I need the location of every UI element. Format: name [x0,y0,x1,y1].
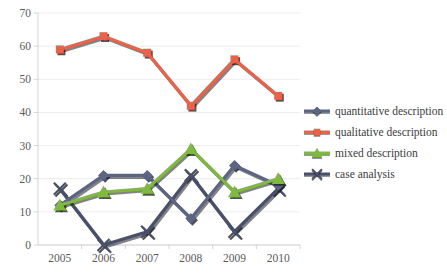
y-axis-tick-label: 70 [20,7,32,19]
data-point-square [314,128,321,135]
data-point-square [187,102,195,110]
x-axis-tick-label: 2008 [179,252,202,264]
data-point-triangle [184,142,197,154]
legend-item-label: case analysis [335,167,395,181]
legend-marker-square-icon [303,125,331,139]
series-line-shadow [61,38,279,108]
legend-item-qualitative-description[interactable]: qualitative description [303,121,447,142]
series-qualitative-description [56,32,284,111]
x-axis-tick-label: 2010 [267,252,290,264]
x-axis-tick-label: 2006 [92,252,115,264]
legend-item-label: mixed description [335,146,418,160]
legend-item-mixed-description[interactable]: mixed description [303,142,447,163]
y-axis-tick-label: 30 [20,140,32,152]
data-point-square [100,32,108,40]
data-point-square [143,49,151,57]
y-axis-tick-label: 40 [20,106,32,118]
x-axis-ticks: 200520062007200820092010 [48,252,290,264]
data-point-triangle [272,172,285,184]
legend-item-label: qualitative description [335,125,438,139]
legend-marker-diamond-icon [303,104,331,118]
y-axis-tick-label: 20 [20,173,32,185]
data-point-diamond [312,106,321,115]
data-point-square [231,55,239,63]
y-axis-tick-label: 0 [25,239,31,251]
data-point-square [56,45,64,53]
legend-marker-x-icon [303,167,331,181]
y-axis-tick-label: 10 [20,206,32,218]
x-axis-tick-label: 2005 [48,252,71,264]
series-case-analysis [54,169,286,252]
legend-item-case-analysis[interactable]: case analysis [303,163,447,184]
x-axis-tick-label: 2007 [136,252,159,264]
line-chart: 010203040506070 200520062007200820092010… [0,0,447,278]
x-axis-tick-label: 2009 [223,252,246,264]
legend-marker-triangle-icon [303,146,331,160]
legend-item-quantitative-description[interactable]: quantitative description [303,100,447,121]
chart-legend: quantitative descriptionqualitative desc… [303,100,447,184]
legend-item-label: quantitative description [335,104,443,118]
y-axis-tick-label: 50 [20,73,32,85]
data-point-square [274,92,282,100]
series-lines [53,32,286,253]
y-axis-tick-label: 60 [20,40,32,52]
y-axis-ticks: 010203040506070 [20,7,32,251]
